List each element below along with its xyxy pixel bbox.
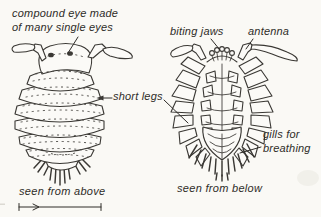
label-compound-eye: compound eye made of many single eyes (12, 7, 118, 34)
legs-left (171, 57, 210, 166)
label-short-legs: short legs (113, 90, 163, 104)
label-gills: gills for breathing (263, 128, 311, 155)
scan-smudge (297, 170, 319, 186)
woodlouse-diagram-page: compound eye made of many single eyes bi… (0, 0, 321, 217)
scale-bar (19, 204, 101, 211)
woodlouse-dorsal-figure (12, 44, 132, 186)
caption-seen-from-above: seen from above (19, 185, 105, 198)
compound-eye-right (67, 51, 73, 56)
label-antenna: antenna (248, 25, 289, 39)
label-biting-jaws: biting jaws (170, 25, 224, 39)
woodlouse-ventral-figure (171, 43, 298, 181)
compound-eye-left (48, 53, 54, 58)
biting-jaws-mouthparts (207, 47, 237, 62)
caption-seen-from-below: seen from below (177, 182, 262, 195)
head-capsule (39, 44, 92, 75)
scan-artifact (0, 204, 5, 206)
